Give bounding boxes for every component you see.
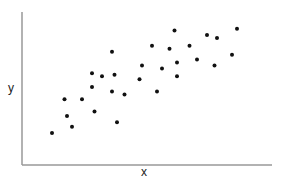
data-point	[213, 64, 217, 68]
data-point	[110, 50, 114, 54]
data-point	[150, 44, 154, 48]
x-axis-label: x	[141, 165, 147, 179]
data-point	[168, 47, 172, 51]
data-point	[90, 71, 94, 75]
data-point	[115, 120, 119, 124]
y-axis-label: y	[8, 81, 14, 95]
data-point	[195, 57, 199, 61]
data-point	[110, 90, 114, 94]
data-point	[138, 77, 142, 81]
data-point	[175, 74, 179, 78]
data-point	[113, 73, 117, 77]
data-point	[93, 110, 97, 114]
data-points	[50, 27, 239, 135]
data-point	[63, 97, 67, 101]
data-point	[205, 33, 209, 37]
data-point	[173, 28, 177, 32]
data-point	[100, 74, 104, 78]
scatter-chart	[0, 0, 283, 188]
data-point	[140, 64, 144, 68]
data-point	[188, 44, 192, 48]
data-point	[230, 53, 234, 57]
data-point	[155, 90, 159, 94]
data-point	[235, 27, 239, 31]
data-point	[80, 97, 84, 101]
data-point	[65, 114, 69, 118]
data-point	[160, 67, 164, 71]
data-point	[123, 93, 127, 97]
data-point	[215, 36, 219, 40]
data-point	[175, 61, 179, 65]
data-point	[70, 125, 74, 129]
data-point	[50, 131, 54, 135]
data-point	[90, 85, 94, 89]
